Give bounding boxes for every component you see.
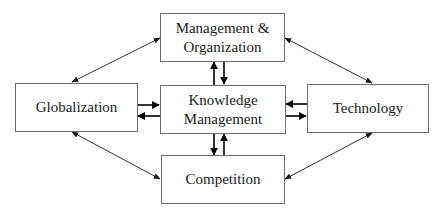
arrow-competition-technology <box>285 133 372 179</box>
arrow-globalization-competition <box>72 132 160 179</box>
node-competition: Competition <box>161 155 285 204</box>
node-knowledge-management: Knowledge Management <box>160 85 286 134</box>
node-label: Competition <box>186 170 261 189</box>
node-label: Technology <box>333 99 404 118</box>
node-globalization: Globalization <box>15 83 138 132</box>
node-label: Knowledge Management <box>184 91 262 129</box>
node-technology: Technology <box>307 84 429 133</box>
knowledge-management-diagram: Management & Organization Globalization … <box>0 0 445 217</box>
arrow-management-technology <box>285 38 372 83</box>
arrow-globalization-management <box>72 38 160 82</box>
node-management-organization: Management & Organization <box>160 13 285 62</box>
node-label: Globalization <box>36 98 118 117</box>
node-label: Management & Organization <box>176 19 270 57</box>
